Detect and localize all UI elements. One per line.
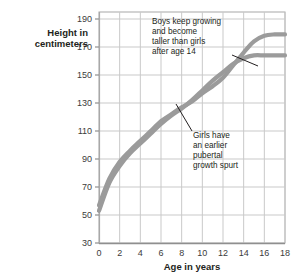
x-tick-label-8: 8 [179,248,184,258]
x-tick-label-10: 10 [197,248,207,258]
x-tick-label-14: 14 [239,248,249,258]
annotation-boys-line-0: Boys keep growing [152,17,222,26]
annotation-girls-line-2: pubertal [193,151,223,160]
annotation-girls-line-1: an earlier [193,141,227,150]
x-tick-label-16: 16 [259,248,269,258]
x-tick-label-2: 2 [117,248,122,258]
chart-figure: 30507090110130150170190 024681012141618 … [0,0,299,280]
x-tick-label-12: 12 [218,248,228,258]
y-tick-label-30: 30 [82,238,92,248]
x-tick-label-6: 6 [158,248,163,258]
y-axis-title-line2: centimeters [35,38,88,49]
y-tick-label-50: 50 [82,210,92,220]
annotation-boys-line-3: after age 14 [152,47,196,56]
x-tick-label-18: 18 [280,248,290,258]
y-tick-label-90: 90 [82,154,92,164]
y-tick-label-130: 130 [77,98,92,108]
x-tick-label-4: 4 [138,248,143,258]
annotation-boys-line-1: and become [152,27,198,36]
y-tick-label-190: 190 [77,14,92,24]
growth-chart-svg: 30507090110130150170190 024681012141618 … [0,0,299,280]
annotation-girls-line-3: growth spurt [193,161,239,170]
y-tick-label-110: 110 [78,126,92,136]
annotation-girls-line-0: Girls have [193,131,230,140]
x-axis-title: Age in years [164,261,221,272]
y-tick-label-150: 150 [77,70,92,80]
y-tick-label-70: 70 [82,182,92,192]
annotation-boys-line-2: taller than girls [152,37,205,46]
x-tick-label-0: 0 [96,248,101,258]
y-axis-title-line1: Height in [47,27,88,38]
